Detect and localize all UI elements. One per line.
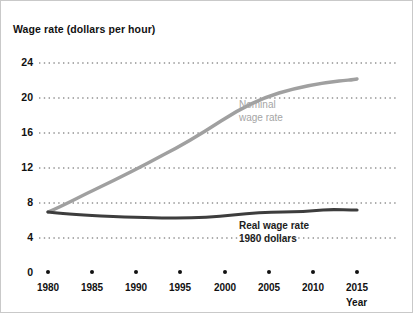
y-tick-16: 16 <box>7 126 33 138</box>
y-tick-4: 4 <box>7 231 33 243</box>
x-tick-label-1995: 1995 <box>160 282 200 293</box>
y-tick-0: 0 <box>7 266 33 278</box>
chart-plot-area <box>1 1 413 313</box>
x-tick-label-1980: 1980 <box>28 282 68 293</box>
y-tick-12: 12 <box>7 161 33 173</box>
x-tick-dot-1980 <box>46 270 50 274</box>
figure-frame: Wage rate (dollars per hour) 24 20 16 12… <box>0 0 413 313</box>
series-annotation-nominal: Nominal wage rate <box>239 98 283 124</box>
y-tick-24: 24 <box>7 56 33 68</box>
x-axis-title: Year <box>346 297 367 308</box>
x-tick-label-1990: 1990 <box>116 282 156 293</box>
nominal-label-line1: Nominal <box>239 98 283 111</box>
x-tick-dot-1995 <box>178 270 182 274</box>
x-tick-label-2005: 2005 <box>249 282 289 293</box>
gridlines <box>39 63 397 238</box>
x-tick-label-2000: 2000 <box>205 282 245 293</box>
x-tick-label-2010: 2010 <box>293 282 333 293</box>
series-annotation-real: Real wage rate 1980 dollars <box>239 219 309 245</box>
x-tick-label-2015: 2015 <box>337 282 377 293</box>
x-tick-dot-2010 <box>311 270 315 274</box>
x-tick-label-1985: 1985 <box>72 282 112 293</box>
x-tick-dot-1990 <box>134 270 138 274</box>
nominal-label-line2: wage rate <box>239 111 283 124</box>
y-tick-20: 20 <box>7 91 33 103</box>
series-line-nominal-wage-rate <box>48 79 357 212</box>
x-tick-dot-2015 <box>355 270 359 274</box>
x-tick-dot-1985 <box>90 270 94 274</box>
real-label-line1: Real wage rate <box>239 219 309 232</box>
real-label-line2: 1980 dollars <box>239 232 309 245</box>
y-tick-8: 8 <box>7 196 33 208</box>
x-tick-dot-2000 <box>223 270 227 274</box>
series-line-real-wage-rate <box>48 210 357 218</box>
x-tick-dot-2005 <box>267 270 271 274</box>
